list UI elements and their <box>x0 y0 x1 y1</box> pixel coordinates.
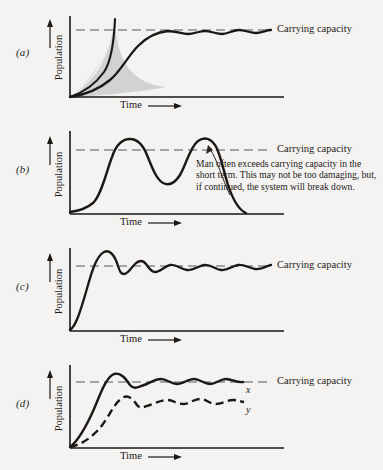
curve-tag-y: y <box>246 404 250 415</box>
carrying-capacity-label-b: Carrying capacity <box>277 143 352 154</box>
carrying-capacity-label-d: Carrying capacity <box>277 375 352 386</box>
panel-d: (d) Population Carrying capacity x y Tim… <box>0 351 383 468</box>
x-axis-label-c: Time <box>120 333 184 344</box>
curve-x-solid-d <box>70 374 243 447</box>
x-axis-arrow-icon-a <box>148 102 184 110</box>
plot-area-d <box>0 351 383 468</box>
x-axis-label-d: Time <box>120 450 184 461</box>
population-carrying-capacity-figure: (a) Population Carrying capacity <box>0 0 383 470</box>
logistic-curve-a <box>70 30 271 97</box>
x-axis-label-b: Time <box>120 216 184 227</box>
curve-tag-x: x <box>246 384 250 395</box>
plot-area-a <box>0 0 383 117</box>
panel-b: (b) Population Carrying capacity Man oft… <box>0 117 383 234</box>
annotation-text-b: Man often exceeds carrying capacity in t… <box>196 158 378 192</box>
plot-area-c <box>0 234 383 351</box>
x-axis-label-text-d: Time <box>120 450 142 461</box>
panel-c: (c) Population Carrying capacity Time <box>0 234 383 351</box>
x-axis-arrow-icon-d <box>148 453 184 461</box>
x-axis-arrow-icon-b <box>148 219 184 227</box>
damped-oscillation-curve-c <box>70 251 271 330</box>
x-axis-label-text-b: Time <box>120 216 142 227</box>
x-axis-label-text-a: Time <box>120 99 142 110</box>
x-axis-label-a: Time <box>120 99 184 110</box>
x-axis-arrow-icon-c <box>148 336 184 344</box>
carrying-capacity-label-c: Carrying capacity <box>277 259 352 270</box>
panel-a: (a) Population Carrying capacity <box>0 0 383 117</box>
x-axis-label-text-c: Time <box>120 333 142 344</box>
carrying-capacity-label-a: Carrying capacity <box>277 23 352 34</box>
